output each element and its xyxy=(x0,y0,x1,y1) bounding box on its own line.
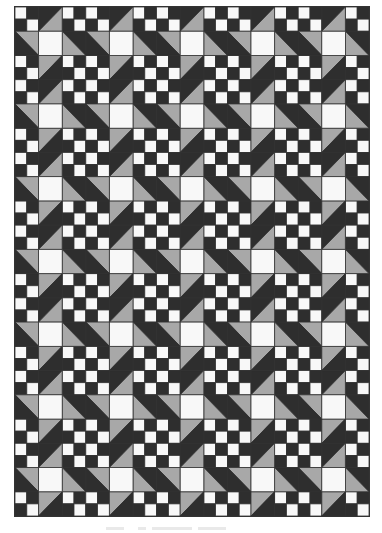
four-patch-square xyxy=(98,358,110,370)
four-patch-square xyxy=(168,201,180,213)
four-patch-square xyxy=(286,419,298,431)
four-patch-square xyxy=(62,371,74,383)
four-patch-square xyxy=(133,152,145,164)
four-patch-square xyxy=(275,455,287,467)
four-patch-square xyxy=(145,492,157,504)
four-patch-square xyxy=(98,165,110,177)
four-patch-square xyxy=(86,431,98,443)
four-patch-square xyxy=(168,455,180,467)
four-patch-square xyxy=(239,128,251,140)
four-patch-square xyxy=(204,92,216,104)
four-patch-square xyxy=(86,225,98,237)
four-patch-square xyxy=(98,92,110,104)
four-patch-square xyxy=(286,165,298,177)
four-patch-square xyxy=(227,165,239,177)
four-patch-square xyxy=(27,55,39,67)
four-patch-square xyxy=(286,128,298,140)
four-patch-square xyxy=(86,152,98,164)
block-center xyxy=(180,31,204,55)
four-patch-square xyxy=(345,310,357,322)
four-patch-square xyxy=(145,298,157,310)
four-patch-square xyxy=(239,383,251,395)
quilt-svg xyxy=(15,7,369,516)
four-patch-square xyxy=(62,443,74,455)
four-patch-square xyxy=(227,492,239,504)
four-patch-square xyxy=(204,358,216,370)
four-patch-square xyxy=(216,455,228,467)
four-patch-square xyxy=(145,443,157,455)
block-center xyxy=(180,322,204,346)
four-patch-square xyxy=(86,19,98,31)
four-patch-square xyxy=(227,55,239,67)
four-patch-square xyxy=(239,165,251,177)
four-patch-square xyxy=(357,225,369,237)
four-patch-square xyxy=(275,358,287,370)
four-patch-square xyxy=(345,201,357,213)
four-patch-square xyxy=(62,225,74,237)
four-patch-square xyxy=(133,68,145,80)
four-patch-square xyxy=(86,274,98,286)
four-patch-square xyxy=(157,455,169,467)
four-patch-square xyxy=(168,358,180,370)
four-patch-square xyxy=(62,165,74,177)
block-center xyxy=(322,31,346,55)
four-patch-square xyxy=(227,419,239,431)
four-patch-square xyxy=(298,165,310,177)
four-patch-square xyxy=(239,298,251,310)
block-center xyxy=(180,395,204,419)
four-patch-square xyxy=(345,140,357,152)
four-patch-square xyxy=(133,237,145,249)
four-patch-square xyxy=(357,383,369,395)
four-patch-square xyxy=(357,68,369,80)
four-patch-square xyxy=(168,55,180,67)
block-center xyxy=(109,104,133,128)
four-patch-square xyxy=(133,19,145,31)
four-patch-square xyxy=(86,7,98,19)
four-patch-square xyxy=(286,286,298,298)
four-patch-square xyxy=(227,298,239,310)
four-patch-square xyxy=(286,213,298,225)
four-patch-square xyxy=(298,310,310,322)
four-patch-square xyxy=(74,201,86,213)
block-center xyxy=(39,104,63,128)
four-patch-square xyxy=(145,346,157,358)
four-patch-square xyxy=(27,7,39,19)
four-patch-square xyxy=(86,419,98,431)
four-patch-square xyxy=(310,492,322,504)
four-patch-square xyxy=(357,80,369,92)
four-patch-square xyxy=(98,346,110,358)
four-patch-square xyxy=(86,455,98,467)
block-center xyxy=(180,468,204,492)
four-patch-square xyxy=(15,213,27,225)
block-center xyxy=(109,322,133,346)
four-patch-square xyxy=(168,19,180,31)
four-patch-square xyxy=(345,492,357,504)
four-patch-square xyxy=(345,80,357,92)
four-patch-square xyxy=(357,298,369,310)
four-patch-square xyxy=(98,383,110,395)
four-patch-square xyxy=(216,7,228,19)
four-patch-square xyxy=(98,152,110,164)
four-patch-square xyxy=(204,225,216,237)
four-patch-square xyxy=(98,455,110,467)
four-patch-square xyxy=(157,201,169,213)
four-patch-square xyxy=(157,128,169,140)
four-patch-square xyxy=(345,7,357,19)
four-patch-square xyxy=(62,237,74,249)
four-patch-square xyxy=(15,346,27,358)
four-patch-square xyxy=(86,443,98,455)
four-patch-square xyxy=(310,431,322,443)
four-patch-square xyxy=(227,286,239,298)
four-patch-square xyxy=(145,504,157,516)
four-patch-square xyxy=(15,92,27,104)
four-patch-square xyxy=(298,358,310,370)
four-patch-square xyxy=(357,274,369,286)
four-patch-square xyxy=(298,140,310,152)
four-patch-square xyxy=(133,286,145,298)
four-patch-square xyxy=(357,431,369,443)
four-patch-square xyxy=(86,358,98,370)
four-patch-square xyxy=(168,383,180,395)
four-patch-square xyxy=(227,92,239,104)
four-patch-square xyxy=(298,443,310,455)
four-patch-square xyxy=(98,237,110,249)
